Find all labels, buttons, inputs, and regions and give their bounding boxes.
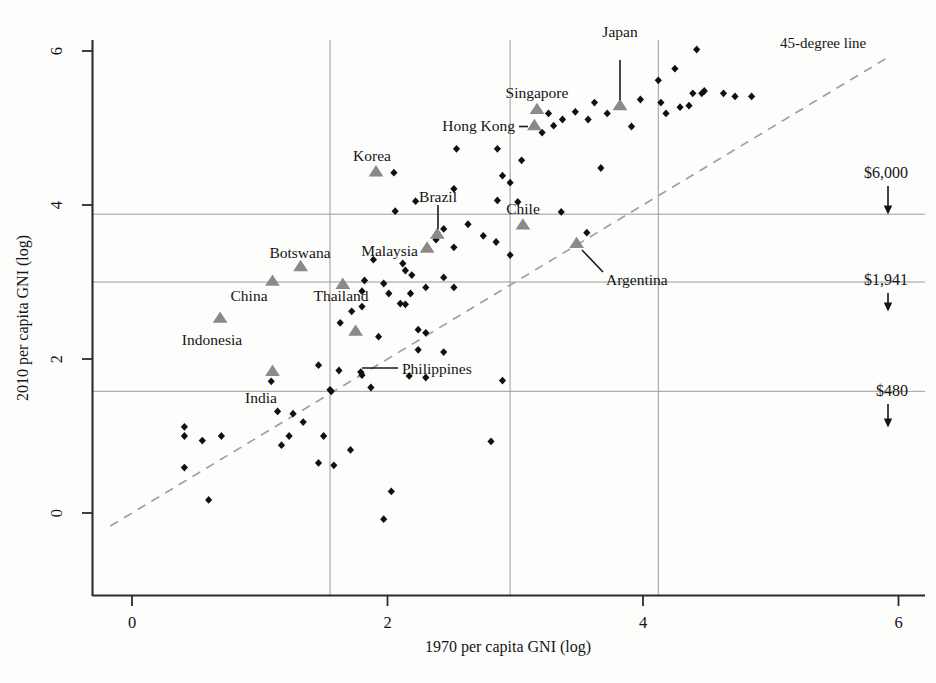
y-tick-label-2: 4 [47,201,66,209]
country-label-india: India [245,389,277,406]
country-label-korea: Korea [353,147,391,164]
x-tick-label-3: 6 [894,613,902,632]
y-tick-label-0: 0 [47,509,66,517]
country-label-indonesia: Indonesia [182,331,242,348]
country-label-philippines: Philippines [402,360,472,377]
country-label-singapore: Singapore [506,84,569,101]
scatter-plot-figure: 0246 0246 1970 per capita GNI (log) 2010… [0,0,936,683]
country-label-botswana: Botswana [269,244,330,261]
country-label-china: China [230,287,267,304]
y-axis-title: 2010 per capita GNI (log) [14,235,32,401]
y-tick-label-1: 2 [47,355,66,363]
country-label-argentina: Argentina [606,271,668,288]
y-tick-label-3: 6 [47,47,66,55]
country-label-thailand: Thailand [313,287,368,304]
country-label-hong-kong: Hong Kong [442,117,515,134]
chart-background [0,0,936,683]
x-axis-title: 1970 per capita GNI (log) [425,638,591,656]
chart-svg: 0246 0246 1970 per capita GNI (log) 2010… [0,0,936,683]
ref-label-1941: $1,941 [864,271,908,288]
x-tick-label-1: 2 [383,613,391,632]
x-tick-label-0: 0 [128,613,136,632]
country-label-japan: Japan [602,23,638,40]
forty-five-degree-line-label: 45-degree line [780,35,867,51]
ref-label-480: $480 [876,382,908,399]
ref-label-6000: $6,000 [864,164,908,181]
country-label-malaysia: Malaysia [361,242,418,259]
country-label-chile: Chile [506,200,540,217]
country-label-brazil: Brazil [419,188,457,205]
x-tick-label-2: 4 [639,613,647,632]
